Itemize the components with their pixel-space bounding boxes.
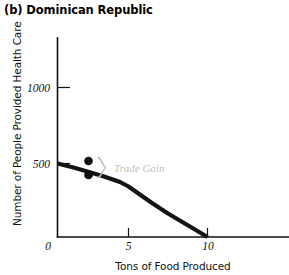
y-tick-label-500: 500 bbox=[33, 158, 51, 170]
consumption-point-marker bbox=[84, 157, 93, 166]
chart-plot-area: 1000 500 0 5 10 Trade Gain Number of Peo… bbox=[0, 0, 289, 275]
x-tick-label-10: 10 bbox=[202, 240, 214, 252]
ppf-curve bbox=[58, 164, 208, 238]
y-axis-title: Number of People Provided Health Care bbox=[11, 21, 23, 226]
x-tick-label-5: 5 bbox=[126, 240, 132, 252]
production-point-marker bbox=[84, 171, 93, 180]
trade-gain-label: Trade Gain bbox=[114, 162, 165, 174]
y-tick-label-1000: 1000 bbox=[27, 82, 50, 94]
x-axis-title: Tons of Food Produced bbox=[114, 260, 230, 272]
y-tick-label-0: 0 bbox=[45, 240, 51, 252]
chart-figure: (b) Dominican Republic 1000 500 0 5 10 T… bbox=[0, 0, 289, 275]
